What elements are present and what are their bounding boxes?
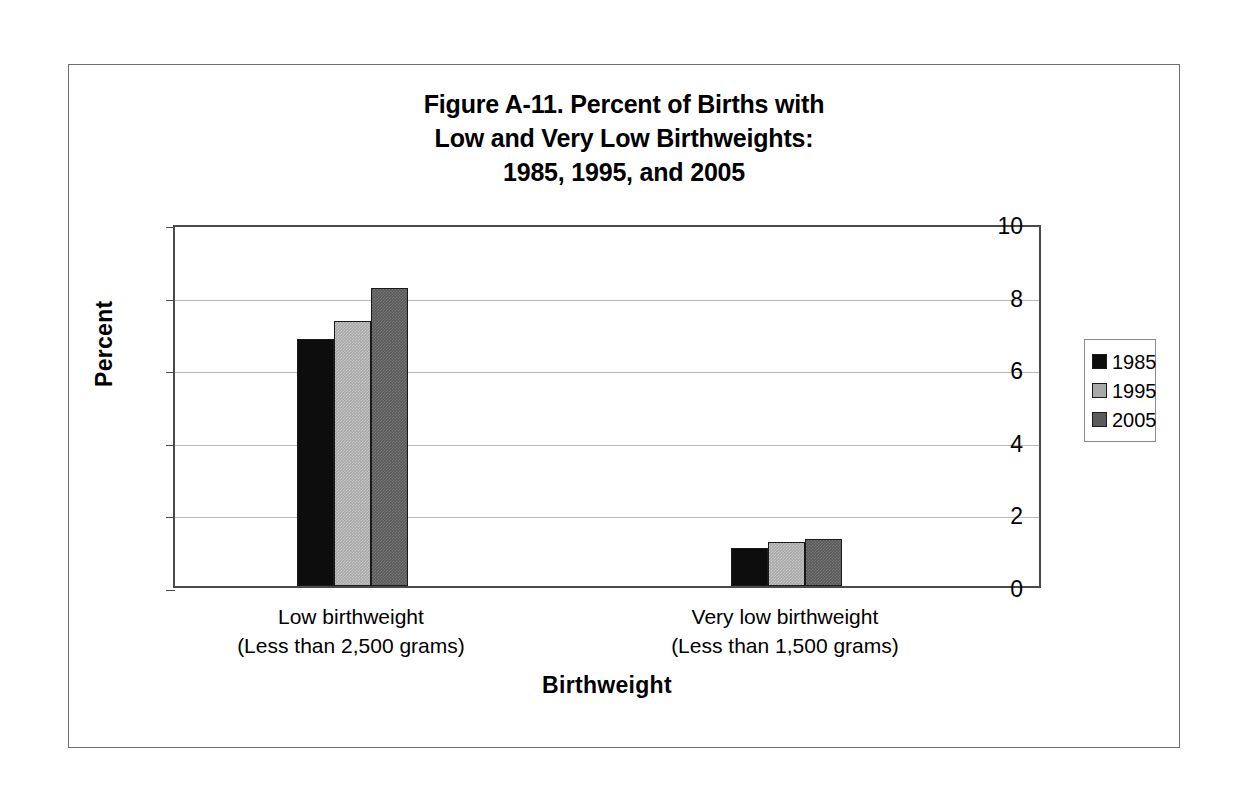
y-axis-tick-label-0: 0 bbox=[1010, 578, 1023, 601]
y-axis-tick-0 bbox=[166, 590, 175, 591]
legend-item-2005[interactable]: 2005 bbox=[1092, 405, 1147, 434]
x-axis-title: Birthweight bbox=[173, 672, 1041, 699]
y-axis-tick-label-10: 10 bbox=[997, 215, 1023, 238]
legend-label-1985: 1985 bbox=[1112, 352, 1157, 372]
y-axis-tick-label-8: 8 bbox=[1010, 288, 1023, 311]
y-axis-tick-4 bbox=[166, 445, 175, 446]
bar-1985-cat0 bbox=[297, 339, 334, 586]
legend-swatch-icon-1985 bbox=[1092, 354, 1107, 369]
y-axis-tick-label-6: 6 bbox=[1010, 360, 1023, 383]
y-axis-tick-8 bbox=[166, 300, 175, 301]
chart-title-line-2: Low and Very Low Birthweights: bbox=[69, 121, 1179, 155]
y-axis-tick-2 bbox=[166, 517, 175, 518]
chart-title-line-1: Figure A-11. Percent of Births with bbox=[69, 87, 1179, 121]
legend-swatch-icon-2005 bbox=[1092, 412, 1107, 427]
legend-item-1995[interactable]: 1995 bbox=[1092, 376, 1147, 405]
legend-label-2005: 2005 bbox=[1112, 410, 1157, 430]
y-axis-tick-label-4: 4 bbox=[1010, 433, 1023, 456]
chart-title: Figure A-11. Percent of Births with Low … bbox=[69, 87, 1179, 189]
legend-swatch-icon-1995 bbox=[1092, 383, 1107, 398]
x-axis-category-label-1: Very low birthweight(Less than 1,500 gra… bbox=[585, 602, 985, 660]
chart-title-line-3: 1985, 1995, and 2005 bbox=[69, 155, 1179, 189]
chart-legend: 198519952005 bbox=[1084, 339, 1156, 442]
figure-frame: Figure A-11. Percent of Births with Low … bbox=[68, 64, 1180, 748]
gridline-y-8 bbox=[175, 300, 1039, 301]
plot-area: 0246810 bbox=[173, 225, 1041, 588]
y-axis-tick-label-2: 2 bbox=[1010, 505, 1023, 528]
x-axis-category-label-0: Low birthweight(Less than 2,500 grams) bbox=[151, 602, 551, 660]
bar-1995-cat1 bbox=[768, 542, 805, 586]
x-axis-category-label-1-line-0: Very low birthweight bbox=[585, 602, 985, 631]
legend-item-1985[interactable]: 1985 bbox=[1092, 347, 1147, 376]
bar-2005-cat1 bbox=[805, 539, 842, 586]
x-axis-category-label-0-line-0: Low birthweight bbox=[151, 602, 551, 631]
x-axis-category-label-0-line-1: (Less than 2,500 grams) bbox=[151, 631, 551, 660]
bar-1995-cat0 bbox=[334, 321, 371, 586]
legend-label-1995: 1995 bbox=[1112, 381, 1157, 401]
y-axis-tick-10 bbox=[166, 227, 175, 228]
bar-2005-cat0 bbox=[371, 288, 408, 586]
bar-1985-cat1 bbox=[731, 548, 768, 586]
x-axis-category-label-1-line-1: (Less than 1,500 grams) bbox=[585, 631, 985, 660]
y-axis-title: Percent bbox=[91, 301, 118, 387]
y-axis-tick-6 bbox=[166, 372, 175, 373]
